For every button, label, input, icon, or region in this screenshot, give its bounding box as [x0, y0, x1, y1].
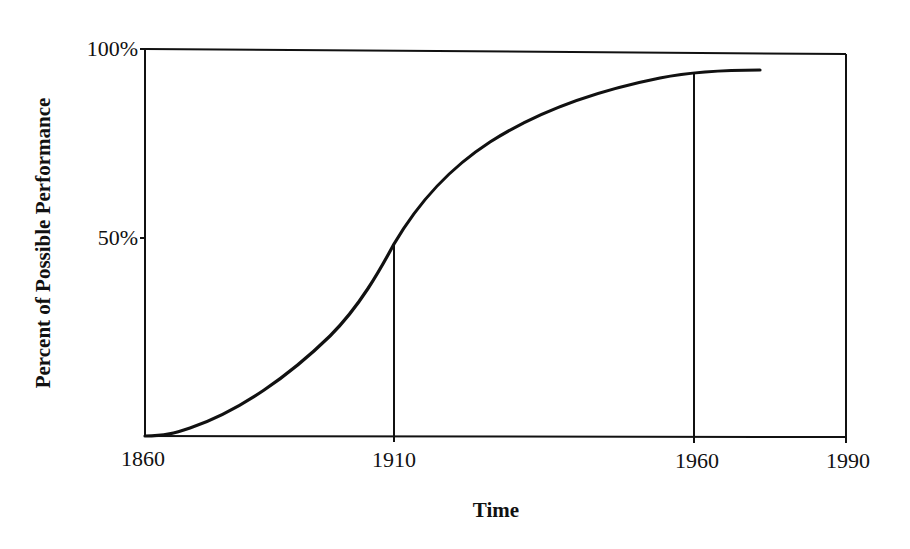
y-tick-label-50: 50%	[98, 225, 138, 250]
x-tick-label-1860: 1860	[121, 446, 165, 471]
s-curve-line	[145, 70, 760, 436]
reference-lines	[394, 72, 694, 437]
plot-frame	[145, 49, 846, 437]
x-tick-label-1910: 1910	[372, 447, 416, 472]
s-curve-chart: 100% 50% 1860 1910 1960 1990 Percent of …	[0, 0, 910, 549]
x-axis-line	[145, 436, 846, 437]
y-tick-label-100: 100%	[87, 36, 138, 61]
y-axis-title: Percent of Possible Performance	[31, 98, 55, 389]
top-border-line	[145, 49, 846, 54]
x-axis-title: Time	[473, 498, 519, 522]
x-tick-label-1960: 1960	[675, 448, 719, 473]
x-tick-label-1990: 1990	[826, 448, 870, 473]
y-ticks: 100% 50%	[87, 36, 145, 250]
x-ticks: 1860 1910 1960 1990	[121, 436, 870, 473]
